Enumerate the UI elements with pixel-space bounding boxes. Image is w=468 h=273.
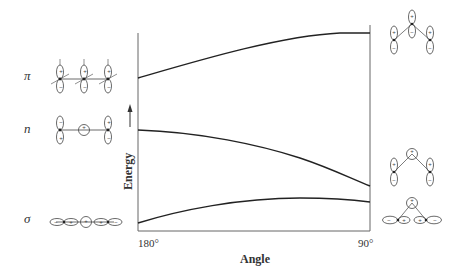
curve-sigma — [138, 198, 370, 223]
walsh-diagram: π n σ Energy 180° 90° Angle + − — [0, 0, 468, 273]
svg-text:−: − — [392, 45, 396, 51]
svg-text:+: + — [428, 29, 432, 35]
y-axis-label: Energy — [121, 153, 135, 190]
svg-text:−: − — [392, 177, 396, 183]
svg-text:−: − — [107, 84, 111, 90]
svg-text:+: + — [83, 68, 87, 74]
svg-text:+: + — [59, 135, 63, 141]
svg-text:+: + — [428, 161, 432, 167]
sigma-bent-orbital-icon: + − + + − — [383, 197, 442, 224]
curve-n — [138, 130, 370, 186]
tick-90: 90° — [358, 237, 373, 249]
n-linear-orbital-icon: − + + + − — [57, 116, 112, 144]
svg-text:−: − — [410, 29, 414, 35]
svg-text:+: + — [107, 68, 111, 74]
svg-text:+: + — [402, 217, 406, 223]
svg-text:+: + — [99, 219, 103, 225]
svg-text:−: − — [107, 135, 111, 141]
svg-text:−: − — [428, 177, 432, 183]
svg-text:+: + — [107, 119, 111, 125]
svg-text:+: + — [82, 124, 86, 130]
curve-pi — [138, 33, 370, 78]
svg-text:+: + — [410, 13, 414, 19]
pi-bent-orbital-icon: + − + − + − — [391, 10, 434, 54]
svg-text:−: − — [54, 219, 58, 225]
svg-text:−: − — [387, 217, 391, 223]
n-bent-orbital-icon: + + − + − — [391, 148, 434, 186]
svg-text:+: + — [69, 219, 73, 225]
sigma-linear-orbital-icon: − + + + − — [50, 217, 122, 228]
svg-text:+: + — [410, 148, 414, 154]
svg-text:−: − — [59, 84, 63, 90]
svg-text:−: − — [59, 119, 63, 125]
svg-text:+: + — [418, 217, 422, 223]
pi-linear-orbital-icon: + − + − + − — [51, 59, 117, 93]
svg-text:−: − — [433, 217, 437, 223]
svg-text:+: + — [59, 68, 63, 74]
svg-text:+: + — [392, 29, 396, 35]
svg-text:+: + — [392, 161, 396, 167]
svg-text:−: − — [83, 84, 87, 90]
svg-text:−: − — [114, 219, 118, 225]
label-n: n — [24, 121, 31, 136]
label-sigma: σ — [24, 211, 31, 226]
tick-180: 180° — [138, 237, 159, 249]
svg-text:+: + — [84, 218, 88, 224]
svg-text:−: − — [428, 45, 432, 51]
label-pi: π — [24, 68, 31, 83]
svg-text:+: + — [410, 197, 414, 203]
energy-arrow-icon — [128, 104, 133, 127]
x-axis-label: Angle — [240, 252, 271, 266]
